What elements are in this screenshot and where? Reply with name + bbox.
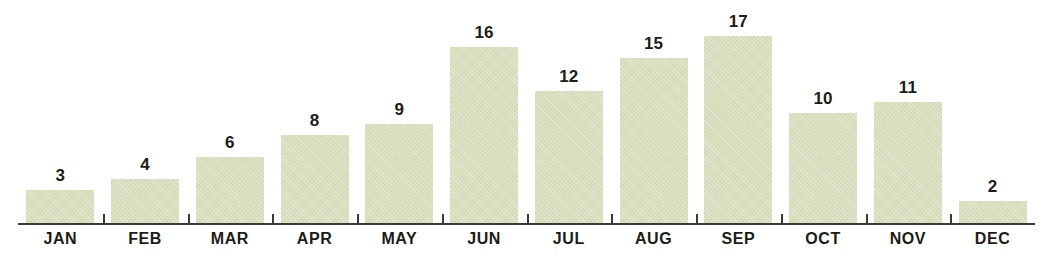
x-axis-tick-11 <box>950 214 952 223</box>
x-axis-tick-1 <box>103 214 105 223</box>
x-tick-label-nov: NOV <box>866 231 951 247</box>
x-axis-tick-5 <box>442 214 444 223</box>
bar-group-jun: 16 <box>450 0 518 223</box>
bar-value-jun: 16 <box>450 24 518 41</box>
bar-value-oct: 10 <box>789 90 857 107</box>
bar-group-apr: 8 <box>281 0 349 223</box>
bar-group-dec: 2 <box>959 0 1027 223</box>
bar-oct[interactable] <box>789 113 857 223</box>
bar-group-oct: 10 <box>789 0 857 223</box>
bar-value-nov: 11 <box>874 79 942 96</box>
bar-value-jan: 3 <box>26 167 94 184</box>
x-tick-label-sep: SEP <box>696 231 781 247</box>
bar-aug[interactable] <box>620 58 688 223</box>
bar-jul[interactable] <box>535 91 603 223</box>
bar-value-apr: 8 <box>281 112 349 129</box>
x-axis-tick-2 <box>188 214 190 223</box>
x-tick-label-jun: JUN <box>442 231 527 247</box>
x-axis-tick-3 <box>272 214 274 223</box>
bar-group-sep: 17 <box>704 0 772 223</box>
x-axis-tick-9 <box>781 214 783 223</box>
plot-area: 346891612151710112 <box>18 0 1035 223</box>
bar-dec[interactable] <box>959 201 1027 223</box>
bar-group-feb: 4 <box>111 0 179 223</box>
bar-value-aug: 15 <box>620 35 688 52</box>
bar-value-dec: 2 <box>959 178 1027 195</box>
bar-value-mar: 6 <box>196 134 264 151</box>
x-axis-tick-4 <box>357 214 359 223</box>
x-tick-label-jul: JUL <box>527 231 612 247</box>
x-axis-tick-6 <box>527 214 529 223</box>
x-axis-baseline <box>18 223 1035 225</box>
x-tick-label-jan: JAN <box>18 231 103 247</box>
bar-group-aug: 15 <box>620 0 688 223</box>
x-tick-label-oct: OCT <box>781 231 866 247</box>
x-axis-tick-8 <box>696 214 698 223</box>
bar-jan[interactable] <box>26 190 94 223</box>
bar-group-may: 9 <box>365 0 433 223</box>
bar-group-nov: 11 <box>874 0 942 223</box>
bar-group-jan: 3 <box>26 0 94 223</box>
bar-nov[interactable] <box>874 102 942 223</box>
bar-apr[interactable] <box>281 135 349 223</box>
bar-sep[interactable] <box>704 36 772 223</box>
bar-chart: 346891612151710112 JANFEBMARAPRMAYJUNJUL… <box>0 0 1052 268</box>
bar-may[interactable] <box>365 124 433 223</box>
x-axis-tick-7 <box>611 214 613 223</box>
bar-value-sep: 17 <box>704 13 772 30</box>
x-tick-label-dec: DEC <box>950 231 1035 247</box>
x-tick-label-apr: APR <box>272 231 357 247</box>
x-tick-label-may: MAY <box>357 231 442 247</box>
x-axis-tick-10 <box>866 214 868 223</box>
bar-jun[interactable] <box>450 47 518 223</box>
bar-group-jul: 12 <box>535 0 603 223</box>
bar-value-may: 9 <box>365 101 433 118</box>
bar-value-feb: 4 <box>111 156 179 173</box>
bar-mar[interactable] <box>196 157 264 223</box>
x-tick-label-feb: FEB <box>103 231 188 247</box>
x-tick-label-mar: MAR <box>188 231 273 247</box>
bar-feb[interactable] <box>111 179 179 223</box>
x-tick-label-aug: AUG <box>611 231 696 247</box>
bar-value-jul: 12 <box>535 68 603 85</box>
bar-group-mar: 6 <box>196 0 264 223</box>
